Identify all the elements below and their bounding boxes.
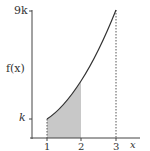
function-curve — [47, 10, 116, 119]
y-axis-label: f(x) — [6, 63, 25, 74]
exponential-area-chart — [0, 0, 150, 151]
y-label-k: k — [19, 112, 26, 123]
y-label-9k: 9k — [14, 5, 28, 16]
x-label-3: 3 — [113, 142, 119, 151]
x-axis-label: x — [130, 140, 136, 150]
x-label-2: 2 — [78, 142, 84, 151]
x-label-1: 1 — [44, 142, 50, 151]
